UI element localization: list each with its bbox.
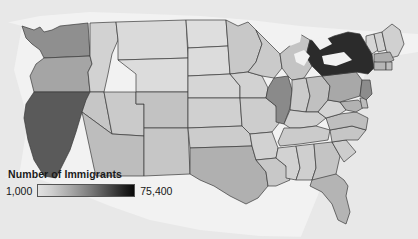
us-states-svg: [0, 0, 418, 239]
state-or[interactable]: [30, 56, 92, 92]
state-nd[interactable]: [186, 20, 228, 48]
legend-title: Number of Immigrants: [8, 168, 182, 181]
state-co[interactable]: [136, 92, 188, 128]
legend-gradient-bar: [37, 184, 135, 197]
state-ne[interactable]: [188, 74, 240, 98]
state-ri[interactable]: [386, 62, 392, 70]
legend-min-label: 1,000: [6, 185, 32, 197]
state-ct[interactable]: [374, 62, 386, 70]
state-mt[interactable]: [116, 20, 188, 60]
map-legend: Number of Immigrants 1,000 75,400: [6, 168, 182, 197]
state-sd[interactable]: [188, 46, 230, 76]
state-ok[interactable]: [188, 126, 252, 148]
legend-max-label: 75,400: [140, 185, 172, 197]
state-ks[interactable]: [188, 98, 242, 128]
legend-scale: 1,000 75,400: [6, 184, 182, 197]
choropleth-map: Number of Immigrants 1,000 75,400: [0, 0, 418, 239]
state-al[interactable]: [296, 144, 316, 180]
